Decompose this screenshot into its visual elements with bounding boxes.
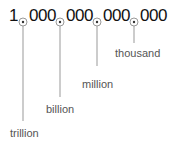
label-million: million: [82, 78, 113, 90]
label-thousand: thousand: [115, 47, 160, 59]
label-trillion: trillion: [10, 127, 39, 139]
label-billion: billion: [46, 103, 74, 115]
separator-diagram: [0, 0, 176, 143]
